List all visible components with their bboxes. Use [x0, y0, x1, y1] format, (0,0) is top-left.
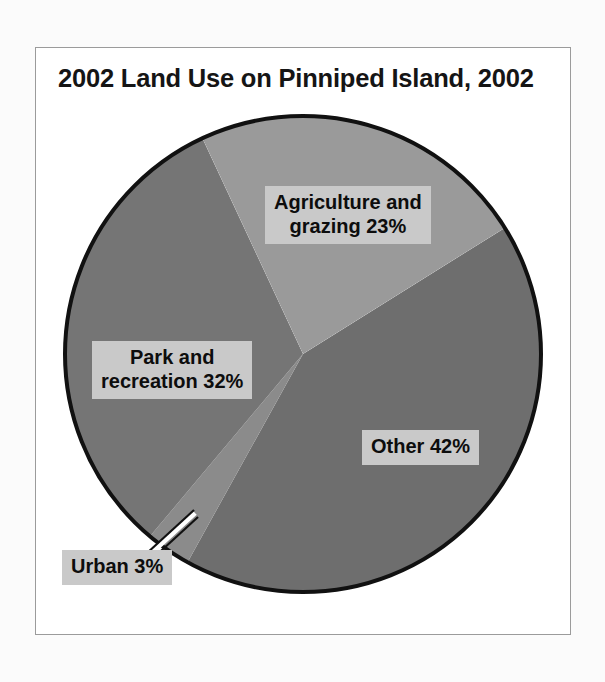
figure-root: 2002 Land Use on Pinniped Island, 2002 A… [0, 0, 605, 682]
pie-label-agriculture-line1: Agriculture and [274, 191, 422, 215]
pie-label-agriculture: Agriculture and grazing 23% [265, 186, 431, 244]
pie-label-agriculture-line2: grazing 23% [274, 215, 422, 239]
pie-label-park-line2: recreation 32% [101, 370, 243, 394]
pie-label-urban: Urban 3% [62, 550, 172, 585]
pie-label-park-line1: Park and [101, 346, 243, 370]
pie-label-park: Park and recreation 32% [92, 341, 252, 399]
pie-label-other: Other 42% [362, 430, 479, 465]
